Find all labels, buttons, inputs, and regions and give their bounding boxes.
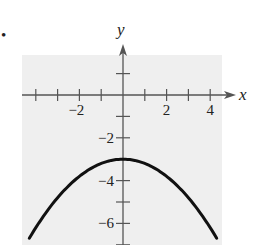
- y-tick-label: −4: [98, 173, 114, 189]
- problem-marker: •: [1, 27, 6, 43]
- plot-background: [22, 55, 222, 245]
- x-tick-label: 2: [163, 102, 171, 118]
- y-tick-label: −2: [98, 130, 114, 146]
- y-tick-label: −6: [98, 215, 114, 231]
- y-axis-label: y: [115, 20, 125, 39]
- x-tick-label: −2: [68, 102, 84, 118]
- x-tick-label: 4: [206, 102, 214, 118]
- x-axis-label: x: [238, 85, 247, 104]
- chart: • −224−2−4−6 x y: [0, 0, 262, 245]
